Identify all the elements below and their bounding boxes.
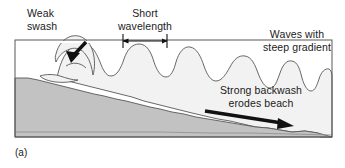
figure-caption: (a) — [15, 147, 27, 158]
label-strong-backwash: Strong backwash erodes beach — [201, 84, 321, 109]
label-waves-steep-gradient: Waves with steep gradient — [249, 28, 345, 53]
label-short-wavelength: Short wavelength — [99, 7, 191, 32]
label-weak-swash: Weak swash — [27, 7, 57, 32]
destructive-wave-diagram: Weak swash Short wavelength Waves with s… — [0, 0, 345, 168]
